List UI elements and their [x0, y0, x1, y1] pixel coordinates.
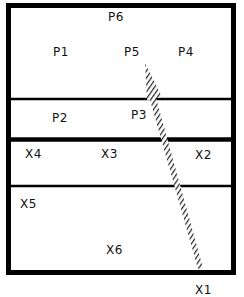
hatched-arrow	[145, 63, 203, 269]
label-x4: X4	[25, 147, 42, 161]
label-p5: P5	[124, 45, 140, 59]
label-p4: P4	[178, 45, 194, 59]
label-x1: X1	[195, 283, 212, 297]
label-x3: X3	[101, 147, 118, 161]
label-p6: P6	[108, 10, 124, 24]
label-x5: X5	[20, 197, 37, 211]
label-x6: X6	[106, 243, 123, 257]
label-p1: P1	[53, 45, 69, 59]
label-p3: P3	[131, 108, 147, 122]
label-p2: P2	[52, 111, 68, 125]
label-x2: X2	[195, 148, 212, 162]
